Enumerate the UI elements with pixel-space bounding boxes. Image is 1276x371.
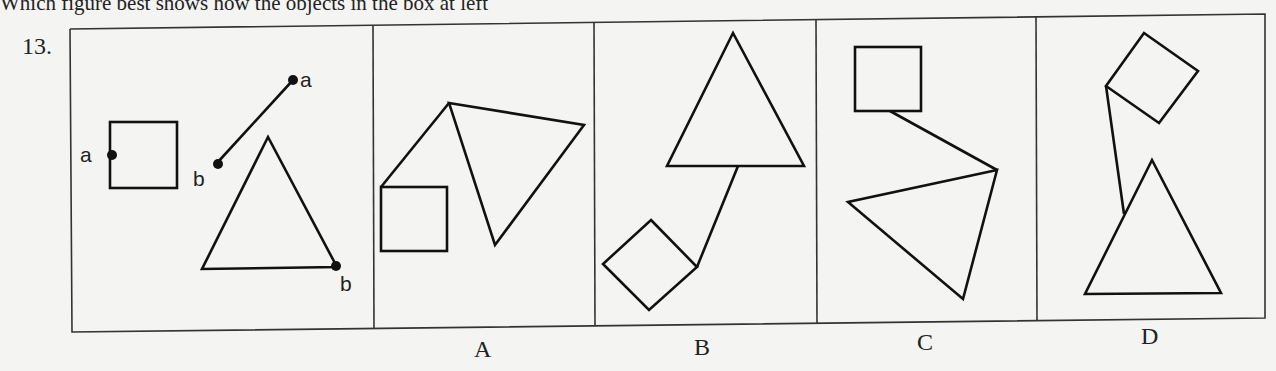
- divider-given-a: [373, 25, 374, 329]
- label-b-segment: b: [193, 167, 205, 190]
- option-d-figure: [1085, 33, 1221, 294]
- point-b-segment: [213, 159, 223, 169]
- label-b-triangle: b: [340, 272, 352, 295]
- divider-c-d: [1036, 17, 1037, 321]
- option-label-b[interactable]: B: [694, 334, 710, 361]
- question-figure: a a b b: [0, 0, 1276, 371]
- given-point-labels: a a b b: [80, 68, 352, 295]
- point-a-segment: [288, 75, 298, 85]
- divider-b-c: [816, 20, 817, 323]
- option-b-figure: [603, 33, 804, 310]
- given-panel: [110, 80, 337, 269]
- given-segment: [217, 80, 293, 163]
- point-b-triangle: [331, 261, 341, 271]
- given-square: [110, 122, 177, 188]
- label-a-square: a: [80, 143, 92, 166]
- option-label-c[interactable]: C: [917, 329, 933, 356]
- option-label-a[interactable]: A: [474, 336, 491, 363]
- option-label-d[interactable]: D: [1141, 323, 1158, 350]
- option-c-figure: [848, 47, 997, 299]
- option-a-figure: [381, 103, 584, 251]
- point-a-square: [107, 150, 117, 160]
- given-points: [107, 75, 341, 271]
- divider-a-b: [594, 23, 595, 326]
- label-a-segment: a: [300, 68, 312, 91]
